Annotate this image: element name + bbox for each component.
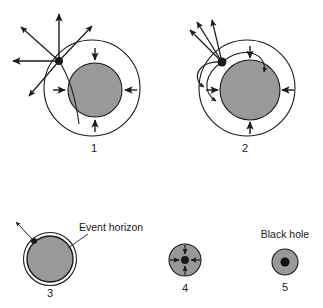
panel-2-ray-2	[197, 22, 222, 62]
panel-2-ray-1	[190, 30, 222, 62]
panel-4-singularity-point	[181, 256, 189, 264]
panel-3-event-horizon-leader-line	[68, 234, 88, 248]
panel-1-number: 1	[91, 142, 97, 154]
panel-1-ray-1	[21, 27, 59, 61]
panel-2-number: 2	[242, 142, 248, 154]
panel-1-ray-3	[59, 26, 92, 61]
event-horizon-label: Event horizon	[79, 221, 143, 233]
panel-3-number: 3	[47, 287, 53, 299]
panel-4-number: 4	[182, 282, 188, 294]
panel-3-escaping-ray	[16, 222, 34, 241]
panel-4: 4	[169, 244, 201, 294]
panel-1-emission-point	[55, 57, 63, 65]
diagram-canvas: 1 2	[0, 0, 323, 308]
panel-2-curved-ray-3	[207, 62, 222, 101]
black-hole-label: Black hole	[261, 228, 310, 240]
panel-3: Event horizon 3	[16, 221, 143, 299]
panel-2-emission-point	[218, 58, 227, 67]
panel-2: 2	[190, 20, 295, 154]
panel-3-emission-point	[31, 238, 37, 244]
panel-5: Black hole 5	[261, 228, 310, 293]
panel-5-singularity-point	[281, 258, 290, 267]
black-hole-formation-diagram: 1 2	[0, 0, 323, 308]
panel-5-number: 5	[282, 281, 288, 293]
panel-1: 1	[13, 14, 140, 154]
panel-2-ray-3	[212, 20, 222, 62]
panel-2-star	[220, 60, 280, 120]
